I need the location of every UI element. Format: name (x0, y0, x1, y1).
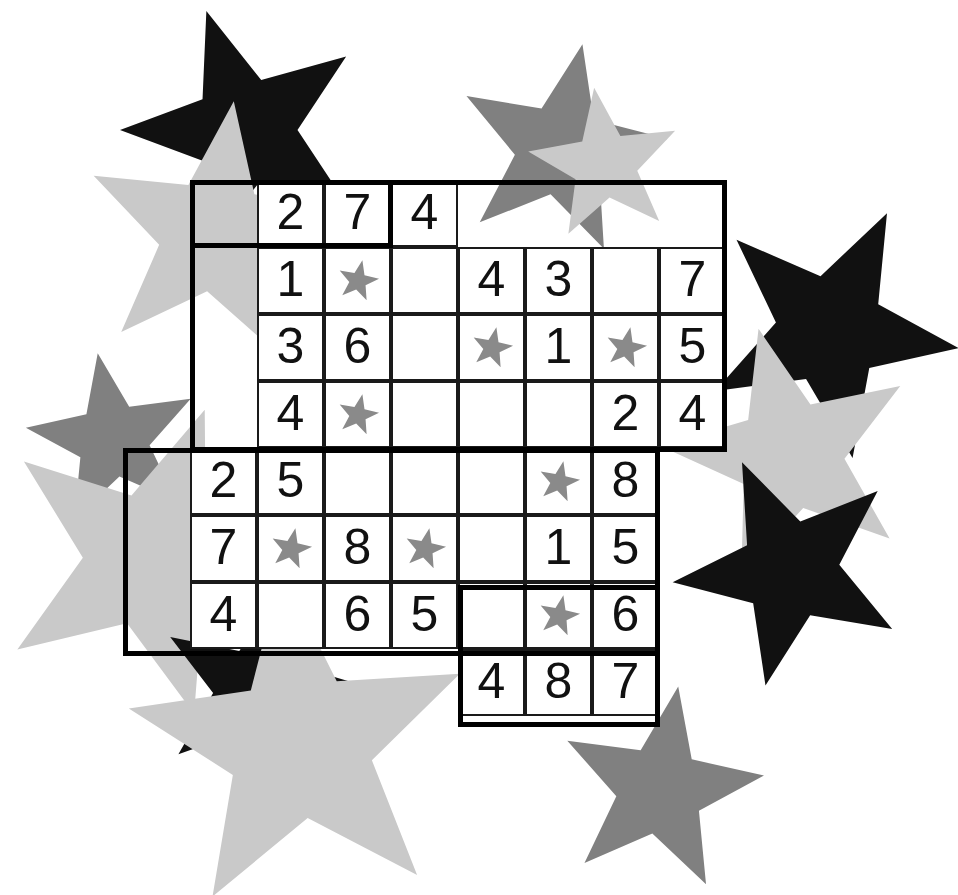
cell-digit: 5 (612, 522, 640, 572)
grid-cell-r6c1[interactable]: 7 (190, 515, 257, 582)
cell-digit: 6 (344, 589, 372, 639)
cell-digit: 8 (612, 455, 640, 505)
cell-digit: 4 (478, 656, 506, 706)
grid-cell-r3c3[interactable]: 6 (324, 314, 391, 381)
cell-digit: 4 (478, 254, 506, 304)
grid-cell-r4c7[interactable]: 2 (592, 381, 659, 448)
grid-cell-r6c3[interactable]: 8 (324, 515, 391, 582)
grid-cell-r7c6[interactable] (525, 582, 592, 649)
cell-digit: 5 (277, 455, 305, 505)
grid-cell-r2c2[interactable]: 1 (257, 247, 324, 314)
grid-cell-r2c3[interactable] (324, 247, 391, 314)
cell-digit: 7 (210, 522, 238, 572)
cell-digit: 7 (344, 187, 372, 237)
star-icon (268, 526, 314, 572)
grid-cell-r5c1[interactable]: 2 (190, 448, 257, 515)
cell-digit: 2 (210, 455, 238, 505)
cell-digit: 4 (277, 388, 305, 438)
grid-cell-r6c5[interactable] (458, 515, 525, 582)
grid-cell-r7c4[interactable]: 5 (391, 582, 458, 649)
star-icon (402, 526, 448, 572)
grid-cell-r7c2[interactable] (257, 582, 324, 649)
grid-cell-r1c2[interactable]: 2 (257, 180, 324, 247)
grid-cell-r3c8[interactable]: 5 (659, 314, 726, 381)
grid-cell-r2c6[interactable]: 3 (525, 247, 592, 314)
grid-cell-r3c2[interactable]: 3 (257, 314, 324, 381)
grid-cell-r8c6[interactable]: 8 (525, 649, 592, 716)
grid-cell-r3c4[interactable] (391, 314, 458, 381)
grid-cell-r5c3[interactable] (324, 448, 391, 515)
cell-digit: 3 (545, 254, 573, 304)
grid-cell-r6c4[interactable] (391, 515, 458, 582)
cell-digit: 8 (344, 522, 372, 572)
grid-cell-r7c7[interactable]: 6 (592, 582, 659, 649)
cell-digit: 4 (210, 589, 238, 639)
grid-cell-r2c4[interactable] (391, 247, 458, 314)
grid-cell-r5c5[interactable] (458, 448, 525, 515)
grid-cell-r2c5[interactable]: 4 (458, 247, 525, 314)
grid-cell-r4c6[interactable] (525, 381, 592, 448)
cell-digit: 4 (679, 388, 707, 438)
grid-cell-r6c7[interactable]: 5 (592, 515, 659, 582)
grid-cell-r4c4[interactable] (391, 381, 458, 448)
grid-cell-r4c8[interactable]: 4 (659, 381, 726, 448)
star-icon (536, 459, 582, 505)
grid-cell-r4c2[interactable]: 4 (257, 381, 324, 448)
grid-cell-r2c8[interactable]: 7 (659, 247, 726, 314)
cell-digit: 7 (612, 656, 640, 706)
star-icon (335, 392, 381, 438)
grid-cell-r3c6[interactable]: 1 (525, 314, 592, 381)
cell-digit: 5 (679, 321, 707, 371)
cell-digit: 1 (277, 254, 305, 304)
grid-cell-r4c5[interactable] (458, 381, 525, 448)
cell-digit: 2 (277, 187, 305, 237)
grid-cell-r7c3[interactable]: 6 (324, 582, 391, 649)
cell-digit: 4 (411, 187, 439, 237)
cell-digit: 6 (344, 321, 372, 371)
grid-cell-r1c4[interactable]: 4 (391, 180, 458, 247)
grid-cell-r5c4[interactable] (391, 448, 458, 515)
grid-cell-r5c6[interactable] (525, 448, 592, 515)
grid-cell-r4c3[interactable] (324, 381, 391, 448)
grid-cell-r3c5[interactable] (458, 314, 525, 381)
grid-cell-r5c2[interactable]: 5 (257, 448, 324, 515)
cell-digit: 5 (411, 589, 439, 639)
cell-digit: 1 (545, 321, 573, 371)
star-icon (335, 258, 381, 304)
grid-cell-r3c7[interactable] (592, 314, 659, 381)
grid-cell-r8c5[interactable]: 4 (458, 649, 525, 716)
cell-digit: 1 (545, 522, 573, 572)
grid-cell-r7c1[interactable]: 4 (190, 582, 257, 649)
star-icon (536, 593, 582, 639)
grid-cell-r8c7[interactable]: 7 (592, 649, 659, 716)
grid-cell-r2c7[interactable] (592, 247, 659, 314)
cell-digit: 3 (277, 321, 305, 371)
grid-cell-r5c7[interactable]: 8 (592, 448, 659, 515)
cell-digit: 6 (612, 589, 640, 639)
sudoku-grid[interactable]: 2741437361542425878154656487 (0, 0, 958, 895)
puzzle-canvas: 2741437361542425878154656487 (0, 0, 958, 895)
star-icon (469, 325, 515, 371)
cell-digit: 7 (679, 254, 707, 304)
cell-digit: 2 (612, 388, 640, 438)
grid-cell-r6c2[interactable] (257, 515, 324, 582)
grid-cell-r1c3[interactable]: 7 (324, 180, 391, 247)
cell-digit: 8 (545, 656, 573, 706)
grid-cell-r6c6[interactable]: 1 (525, 515, 592, 582)
star-icon (603, 325, 649, 371)
grid-cell-r7c5[interactable] (458, 582, 525, 649)
